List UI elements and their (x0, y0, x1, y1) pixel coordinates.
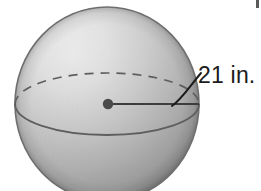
center-dot (103, 99, 113, 109)
dimension-label: 21 in. (198, 62, 255, 88)
sphere-figure: 21 in. (0, 0, 261, 191)
sphere-body (0, 0, 261, 191)
sphere-diagram-canvas (0, 0, 261, 191)
corner-artifact-mark (256, 0, 259, 8)
